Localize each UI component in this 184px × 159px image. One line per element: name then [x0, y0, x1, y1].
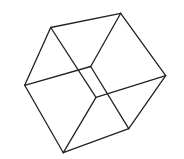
cube-edge-AH	[51, 28, 96, 98]
cube-edge-AB	[51, 13, 121, 27]
cube-edge-DE	[63, 129, 128, 153]
cube-edge-GF	[25, 67, 91, 86]
cube-diagram	[0, 0, 184, 159]
cube-edge-HC	[96, 76, 166, 98]
cube-edge-HE	[63, 97, 96, 152]
cube-edge-BC	[121, 13, 166, 75]
cube-edge-FA	[25, 28, 51, 86]
cube-edge-GB	[91, 13, 121, 66]
wireframe-cube	[0, 0, 184, 159]
cube-edge-CD	[129, 76, 166, 129]
cube-edge-EF	[25, 85, 64, 152]
